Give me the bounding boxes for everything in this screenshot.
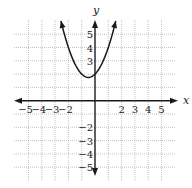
y-tick-label: −4	[78, 149, 93, 160]
y-tick-label: −2	[78, 122, 93, 133]
x-tick-label: 4	[145, 104, 151, 115]
x-tick-label: 5	[158, 104, 164, 115]
x-axis-label: x	[183, 94, 190, 107]
axes	[14, 20, 178, 176]
x-tick-label: 3	[132, 104, 138, 115]
x-tick-label: 2	[118, 104, 124, 115]
y-axis-arrow-up-icon	[92, 20, 98, 28]
x-tick-label: −2	[58, 104, 73, 115]
y-tick-label: −3	[78, 136, 93, 147]
y-tick-label: −5	[78, 162, 93, 173]
y-tick-label: 5	[87, 29, 93, 40]
y-tick-label: 3	[87, 56, 93, 67]
x-axis-arrow-right-icon	[170, 98, 178, 104]
y-axis-label: y	[92, 4, 100, 17]
coordinate-plane: −5−4−3−22345543−2−3−4−5 x y	[0, 0, 192, 188]
y-tick-label: 4	[87, 43, 93, 54]
